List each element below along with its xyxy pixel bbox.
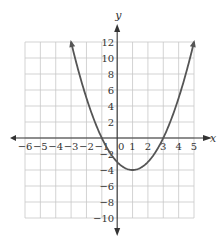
x-tick-label: −2 bbox=[79, 141, 94, 152]
y-axis-arrow-down-icon bbox=[114, 228, 120, 236]
x-tick-label: 1 bbox=[129, 141, 135, 152]
y-tick-label: −2 bbox=[99, 149, 114, 160]
x-tick-label: 0 bbox=[118, 141, 124, 152]
x-tick-label: −3 bbox=[64, 141, 79, 152]
y-axis-label: y bbox=[114, 9, 122, 22]
y-tick-label: −10 bbox=[93, 213, 114, 224]
curve-arrow-icon bbox=[190, 40, 196, 48]
curve-arrow-icon bbox=[69, 40, 75, 48]
x-tick-label: −4 bbox=[48, 141, 63, 152]
x-axis-arrow-left-icon bbox=[10, 135, 16, 141]
x-tick-label: 4 bbox=[175, 141, 181, 152]
y-tick-label: −4 bbox=[99, 165, 114, 176]
y-tick-label: 4 bbox=[108, 101, 114, 112]
x-tick-label: 5 bbox=[191, 141, 197, 152]
y-tick-label: 6 bbox=[108, 85, 114, 96]
y-tick-label: 12 bbox=[101, 37, 114, 48]
y-tick-label: 2 bbox=[108, 117, 114, 128]
y-tick-label: 8 bbox=[108, 69, 114, 80]
y-tick-label: −8 bbox=[99, 197, 114, 208]
x-tick-label: 2 bbox=[145, 141, 151, 152]
x-axis-label: x bbox=[210, 132, 217, 145]
y-tick-label: −6 bbox=[99, 181, 114, 192]
tick-labels: −6−5−4−3−2−101234512108642−2−4−6−8−10 bbox=[18, 37, 198, 224]
y-axis-arrow-up-icon bbox=[114, 24, 120, 32]
x-tick-label: −6 bbox=[18, 141, 33, 152]
parabola-chart: −6−5−4−3−2−101234512108642−2−4−6−8−10 x … bbox=[0, 0, 219, 243]
x-tick-label: −5 bbox=[33, 141, 48, 152]
y-tick-label: 10 bbox=[101, 53, 114, 64]
